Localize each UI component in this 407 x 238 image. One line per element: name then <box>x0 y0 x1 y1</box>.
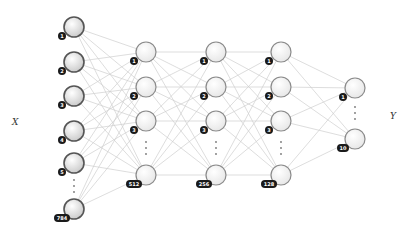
connection-edge <box>74 62 146 175</box>
input-neuron <box>64 52 84 72</box>
hidden-1-index-badge: 2 <box>130 92 138 100</box>
input-index-badge: 5 <box>58 168 66 176</box>
hidden-2-index-badge: 2 <box>200 92 208 100</box>
neural-network-diagram: X Y 12345784123512123256123128110 <box>0 0 407 238</box>
ellipsis-dot <box>354 112 356 114</box>
ellipsis-dot <box>145 147 147 149</box>
output-index-badge: 1 <box>339 93 347 101</box>
ellipsis-dot <box>280 147 282 149</box>
hidden-1-neuron <box>136 77 156 97</box>
input-label-x: X <box>12 117 18 127</box>
hidden-1-neuron <box>136 42 156 62</box>
hidden-3-neuron <box>271 42 291 62</box>
ellipsis-dot <box>73 191 75 193</box>
input-index-badge: 1 <box>58 32 66 40</box>
hidden-1-index-badge: 512 <box>126 180 142 188</box>
ellipsis-dot <box>145 153 147 155</box>
input-index-badge: 4 <box>58 136 66 144</box>
ellipsis-dot <box>215 153 217 155</box>
hidden-2-index-badge: 1 <box>200 57 208 65</box>
hidden-1-neuron <box>136 111 156 131</box>
hidden-2-index-badge: 256 <box>196 180 212 188</box>
hidden-3-neuron <box>271 111 291 131</box>
ellipsis-dot <box>280 141 282 143</box>
input-index-badge: 3 <box>58 101 66 109</box>
ellipsis-dot <box>280 153 282 155</box>
input-neuron <box>64 153 84 173</box>
hidden-1-index-badge: 3 <box>130 126 138 134</box>
ellipsis-dot <box>354 118 356 120</box>
hidden-2-index-badge: 3 <box>200 126 208 134</box>
hidden-2-neuron <box>206 111 226 131</box>
input-neuron <box>64 121 84 141</box>
hidden-3-index-badge: 1 <box>265 57 273 65</box>
hidden-3-index-badge: 3 <box>265 126 273 134</box>
hidden-3-neuron <box>271 77 291 97</box>
input-neuron <box>64 17 84 37</box>
input-neuron <box>64 86 84 106</box>
ellipsis-dot <box>215 147 217 149</box>
ellipsis-dot <box>73 185 75 187</box>
output-neuron <box>345 78 365 98</box>
input-index-badge: 2 <box>58 67 66 75</box>
connection-edge <box>74 62 146 87</box>
connection-edge <box>281 52 355 88</box>
connection-edge <box>281 87 355 88</box>
hidden-2-neuron <box>206 42 226 62</box>
hidden-1-index-badge: 1 <box>130 57 138 65</box>
input-index-badge: 784 <box>54 214 70 222</box>
connection-edge <box>281 121 355 139</box>
ellipsis-dot <box>73 179 75 181</box>
output-label-y: Y <box>390 111 396 121</box>
connection-edge <box>74 27 146 52</box>
ellipsis-dot <box>215 141 217 143</box>
connection-edge <box>74 87 146 209</box>
hidden-3-index-badge: 2 <box>265 92 273 100</box>
neurons <box>64 17 365 219</box>
hidden-2-neuron <box>206 77 226 97</box>
ellipsis-dot <box>354 106 356 108</box>
hidden-3-index-badge: 128 <box>261 180 277 188</box>
output-index-badge: 10 <box>337 144 349 152</box>
ellipsis-dot <box>145 141 147 143</box>
